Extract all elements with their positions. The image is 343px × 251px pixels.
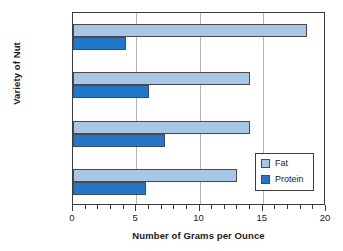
bar-protein-pistachios [73, 182, 146, 195]
x-tick-major [135, 205, 136, 211]
bar-fat-almonds [73, 72, 250, 85]
legend: Fat Protein [255, 153, 314, 191]
x-tick-label: 20 [305, 212, 343, 223]
legend-label-protein: Protein [275, 174, 304, 184]
x-tick-label: 0 [52, 212, 92, 223]
legend-swatch-protein [261, 175, 270, 184]
y-axis-title: Variety of Nut [11, 4, 22, 144]
x-tick-minor [249, 205, 250, 209]
x-tick-minor [85, 205, 86, 209]
legend-label-fat: Fat [275, 158, 288, 168]
x-tick-label: 10 [179, 212, 219, 223]
bar-group [73, 121, 324, 147]
bar-protein-peanuts [73, 134, 165, 147]
legend-item-protein: Protein [261, 174, 304, 184]
x-tick-label: 15 [242, 212, 282, 223]
bar-group [73, 72, 324, 98]
x-tick-minor [148, 205, 149, 209]
x-tick-minor [211, 205, 212, 209]
legend-swatch-fat [261, 159, 270, 168]
bar-fat-walnuts [73, 24, 307, 37]
x-tick-minor [224, 205, 225, 209]
x-tick-minor [274, 205, 275, 209]
x-tick-minor [161, 205, 162, 209]
bar-protein-walnuts [73, 37, 126, 50]
x-axis-title: Number of Grams per Ounce [72, 230, 325, 241]
x-tick-major [262, 205, 263, 211]
x-tick-major [72, 205, 73, 211]
x-tick-minor [287, 205, 288, 209]
x-tick-minor [300, 205, 301, 209]
bar-fat-peanuts [73, 121, 250, 134]
bar-group [73, 24, 324, 50]
x-tick-minor [110, 205, 111, 209]
bar-chart: Variety of Nut WalnutsAlmondsPeanutsPist… [0, 0, 343, 251]
x-tick-minor [312, 205, 313, 209]
legend-item-fat: Fat [261, 158, 288, 168]
x-tick-major [199, 205, 200, 211]
x-tick-label: 5 [115, 212, 155, 223]
x-tick-minor [236, 205, 237, 209]
bar-fat-pistachios [73, 169, 237, 182]
x-tick-minor [173, 205, 174, 209]
x-tick-minor [97, 205, 98, 209]
x-tick-minor [186, 205, 187, 209]
bar-protein-almonds [73, 85, 149, 98]
x-tick-major [325, 205, 326, 211]
x-tick-minor [123, 205, 124, 209]
